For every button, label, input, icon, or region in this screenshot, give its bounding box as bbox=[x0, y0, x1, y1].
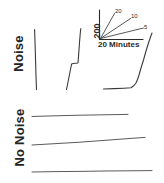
slope-label-10: 10 bbox=[131, 13, 138, 19]
no-noise-trace-1 bbox=[32, 114, 128, 116]
slope-label-20: 20 bbox=[115, 8, 122, 14]
slope-label-5: 5 bbox=[144, 24, 147, 30]
slope-line-5 bbox=[101, 28, 144, 39]
no-noise-trace-3 bbox=[32, 171, 152, 172]
noise-trace-1 bbox=[35, 30, 37, 90]
no-noise-trace-group bbox=[32, 114, 152, 172]
inset-x-axis-label: 20 Minutes bbox=[98, 40, 139, 49]
row-label-noise: Noise bbox=[11, 26, 26, 82]
slope-line-10 bbox=[101, 19, 131, 39]
slope-line-20 bbox=[101, 14, 115, 39]
no-noise-trace-2 bbox=[32, 137, 145, 145]
noise-trace-2 bbox=[67, 29, 81, 90]
figure-panel: Noise No Noise 200 20 Minutes 20 10 5 bbox=[0, 0, 164, 183]
row-label-no-noise: No Noise bbox=[12, 103, 27, 173]
